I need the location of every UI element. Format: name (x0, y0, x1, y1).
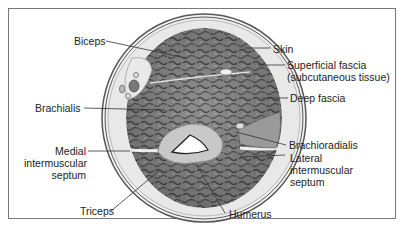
label-biceps: Biceps (74, 35, 106, 47)
label-brachioradialis: Brachioradialis (289, 139, 358, 151)
label-deep-fascia: Deep fascia (290, 92, 345, 104)
arm-cross-section-illustration (0, 0, 407, 234)
label-lateral-intermuscular-septum: Lateral intermuscular septum (290, 152, 353, 188)
label-triceps: Triceps (80, 205, 114, 217)
label-brachialis: Brachialis (35, 102, 81, 114)
label-superficial-fascia: Superficial fascia (subcutaneous tissue) (287, 59, 390, 83)
label-humerus: Humerus (229, 208, 272, 220)
label-skin: Skin (273, 43, 293, 55)
muscle-mass (126, 28, 282, 208)
label-medial-intermuscular-septum: Medial intermuscular septum (24, 145, 86, 181)
